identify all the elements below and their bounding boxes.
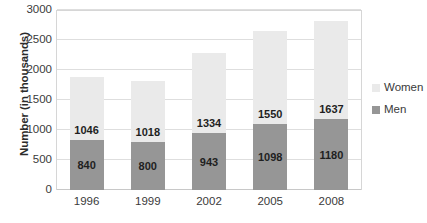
legend-item-label: Men (384, 104, 406, 116)
bar-segment-women[interactable]: 1550 (253, 31, 287, 124)
bar-value-label-men: 1098 (258, 152, 282, 163)
y-axis-tick-label: 500 (6, 154, 52, 166)
bar-segment-women[interactable]: 1637 (314, 21, 348, 119)
x-axis-tick-label: 2005 (240, 196, 300, 208)
y-axis-tick-label: 2500 (6, 34, 52, 46)
bars-layer: 8401046800101894313341098155011801637 (56, 10, 362, 190)
bar-value-label-men: 1180 (319, 150, 343, 161)
bar-value-label-women: 1637 (319, 104, 343, 115)
y-axis-tick-labels: 050010001500200025003000 (0, 10, 52, 190)
y-axis-tick-label: 1000 (6, 124, 52, 136)
bar-segment-men[interactable]: 800 (131, 142, 165, 190)
x-axis-tick-label: 2008 (301, 196, 361, 208)
legend-swatch-icon (372, 106, 380, 114)
bar-segment-men[interactable]: 1098 (253, 124, 287, 190)
stacked-bar-chart: Number (in thousands) 050010001500200025… (0, 0, 427, 223)
y-axis-tick-label: 3000 (6, 4, 52, 16)
bar-value-label-men: 840 (77, 160, 95, 171)
y-axis-tick-label: 2000 (6, 64, 52, 76)
x-axis-tick-label: 1999 (118, 196, 178, 208)
bar-segment-men[interactable]: 840 (70, 140, 104, 190)
legend-item[interactable]: Women (372, 82, 427, 94)
legend-item[interactable]: Men (372, 104, 427, 116)
bar-value-label-men: 943 (200, 157, 218, 168)
x-axis-tick-label: 2002 (179, 196, 239, 208)
bar-segment-men[interactable]: 943 (192, 133, 226, 190)
y-axis-tick-label: 0 (6, 184, 52, 196)
bar-value-label-women: 1018 (136, 127, 160, 138)
bar-segment-men[interactable]: 1180 (314, 119, 348, 190)
bar-value-label-women: 1334 (197, 118, 221, 129)
bar-segment-women[interactable]: 1046 (70, 77, 104, 140)
chart-legend: WomenMen (372, 82, 427, 126)
legend-item-label: Women (384, 82, 423, 94)
y-axis-tick-label: 1500 (6, 94, 52, 106)
x-axis-tick-label: 1996 (57, 196, 117, 208)
legend-swatch-icon (372, 84, 380, 92)
bar-value-label-women: 1046 (74, 125, 98, 136)
bar-segment-women[interactable]: 1018 (131, 81, 165, 142)
bar-value-label-men: 800 (139, 161, 157, 172)
bar-value-label-women: 1550 (258, 109, 282, 120)
x-axis-tick-labels: 19961999200220052008 (56, 196, 362, 216)
bar-segment-women[interactable]: 1334 (192, 53, 226, 133)
